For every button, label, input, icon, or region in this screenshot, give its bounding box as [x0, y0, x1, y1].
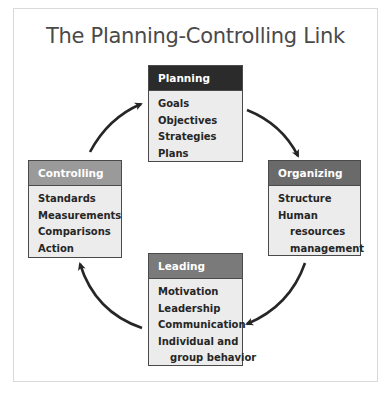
controlling-item: Comparisons — [38, 224, 121, 241]
leading-item: Individual and — [158, 334, 242, 351]
planning-box: Planning Goals Objectives Strategies Pla… — [148, 65, 243, 162]
arrow-organizing-to-leading — [247, 263, 305, 324]
organizing-header: Organizing — [269, 161, 360, 186]
planning-item: Plans — [158, 146, 242, 163]
organizing-item: resources — [278, 224, 360, 241]
controlling-header: Controlling — [29, 161, 121, 186]
organizing-item: management — [278, 241, 360, 258]
controlling-box: Controlling Standards Measurements Compa… — [28, 160, 122, 258]
arrow-planning-to-organizing — [247, 110, 298, 156]
leading-header: Leading — [149, 254, 242, 279]
planning-item: Strategies — [158, 129, 242, 146]
organizing-item: Human — [278, 208, 360, 225]
leading-items: Motivation Leadership Communication Indi… — [149, 279, 242, 367]
leading-item: group behavior — [158, 350, 242, 367]
planning-item: Objectives — [158, 113, 242, 130]
controlling-item: Measurements — [38, 208, 121, 225]
controlling-item: Action — [38, 241, 121, 258]
leading-item: Communication — [158, 317, 242, 334]
planning-header: Planning — [149, 66, 242, 91]
leading-item: Motivation — [158, 284, 242, 301]
planning-item: Goals — [158, 96, 242, 113]
organizing-box: Organizing Structure Human resources man… — [268, 160, 361, 256]
leading-item: Leadership — [158, 301, 242, 318]
arrow-controlling-to-planning — [90, 104, 141, 152]
planning-items: Goals Objectives Strategies Plans — [149, 91, 242, 162]
controlling-items: Standards Measurements Comparisons Actio… — [29, 186, 121, 257]
leading-box: Leading Motivation Leadership Communicat… — [148, 253, 243, 366]
organizing-item: Structure — [278, 191, 360, 208]
organizing-items: Structure Human resources management — [269, 186, 360, 257]
arrow-leading-to-controlling — [80, 264, 142, 328]
controlling-item: Standards — [38, 191, 121, 208]
